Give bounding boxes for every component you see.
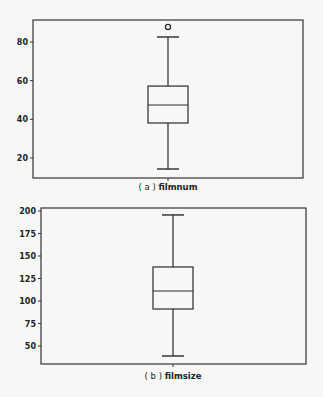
y-tick-label: 50 [25, 342, 37, 351]
y-tick-label: 200 [19, 207, 36, 216]
y-tick-label: 80 [17, 38, 29, 47]
y-tick-label: 60 [17, 77, 29, 86]
outlier-marker [165, 24, 170, 29]
y-tick-label: 150 [19, 252, 36, 261]
y-tick-label: 175 [19, 230, 36, 239]
box-plot-filmsize: 5075100125150175200( b ) filmsize [19, 207, 306, 381]
y-tick-label: 20 [17, 154, 29, 163]
y-tick-label: 75 [25, 320, 37, 329]
box-plot-filmnum: 20406080( a ) filmnum [17, 20, 303, 192]
iqr-box [153, 267, 193, 309]
y-tick-label: 125 [19, 275, 36, 284]
y-tick-label: 40 [17, 115, 29, 124]
figure-caption: ( a ) filmnum [139, 182, 198, 192]
figure-caption: ( b ) filmsize [145, 371, 202, 381]
y-tick-label: 100 [19, 297, 36, 306]
box-plot-figure: 20406080( a ) filmnum 507510012515017520… [0, 0, 323, 397]
